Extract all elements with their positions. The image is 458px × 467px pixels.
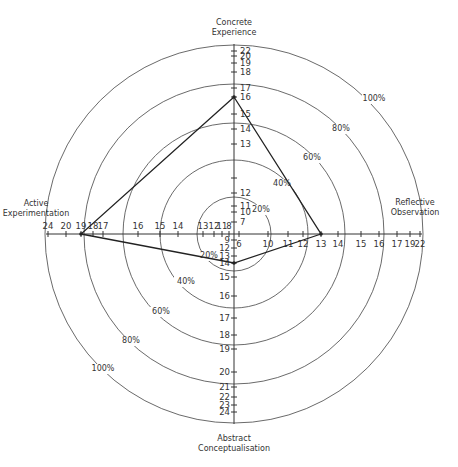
- tick-label: 16: [219, 291, 230, 301]
- tick-label: 10: [263, 239, 274, 249]
- tick-label: 14: [219, 258, 230, 268]
- axis-title-down: Conceptualisation: [198, 444, 270, 453]
- ring-label: 40%: [177, 277, 195, 286]
- axis-title-right: Observation: [391, 208, 440, 217]
- ring-label: 100%: [92, 364, 115, 373]
- axis-title-left: Experimentation: [3, 209, 69, 218]
- data-point-right: [319, 232, 323, 236]
- tick-label: 24: [219, 407, 230, 417]
- tick-label: 21: [219, 382, 230, 392]
- tick-label: 13: [316, 239, 327, 249]
- tick-label: 7: [240, 217, 245, 227]
- tick-label: 6: [236, 239, 241, 249]
- tick-label: 18: [240, 67, 251, 77]
- tick-label: 14: [173, 221, 184, 231]
- data-point-up: [232, 95, 236, 99]
- tick-label: 17: [219, 313, 230, 323]
- tick-label: 16: [374, 239, 385, 249]
- tick-label: 22: [415, 239, 426, 249]
- axis-title-down: Abstract: [217, 434, 251, 443]
- tick-label: 17: [392, 239, 403, 249]
- tick-label: 12: [240, 188, 251, 198]
- ring-label: 80%: [122, 336, 140, 345]
- radar-svg: 7101112131415161718192022ConcreteExperie…: [0, 0, 458, 467]
- axis-title-up: Experience: [212, 28, 257, 37]
- tick-label: 22: [240, 46, 251, 56]
- tick-label: 16: [240, 92, 251, 102]
- data-point-down: [232, 261, 236, 265]
- axis-title-left: Active: [24, 199, 49, 208]
- tick-label: 11: [240, 201, 251, 211]
- tick-label: 15: [155, 221, 166, 231]
- ring-label: 80%: [332, 124, 350, 133]
- ring-label: 100%: [363, 94, 386, 103]
- tick-label: 12: [209, 221, 220, 231]
- tick-label: 13: [240, 139, 251, 149]
- tick-label: 18: [219, 330, 230, 340]
- tick-label: 17: [98, 221, 109, 231]
- tick-label: 16: [133, 221, 144, 231]
- ring-label: 60%: [152, 307, 170, 316]
- kolb-learning-style-radar-chart: 7101112131415161718192022ConcreteExperie…: [0, 0, 458, 467]
- tick-label: 19: [76, 221, 87, 231]
- tick-label: 20: [61, 221, 72, 231]
- axis-title-up: Concrete: [216, 18, 252, 27]
- tick-label: 15: [356, 239, 367, 249]
- tick-label: 19: [219, 344, 230, 354]
- tick-label: 17: [240, 83, 251, 93]
- ring-label: 20%: [252, 205, 270, 214]
- tick-label: 20: [219, 367, 230, 377]
- tick-label: 14: [333, 239, 344, 249]
- ring-label: 20%: [200, 251, 218, 260]
- tick-label: 13: [198, 221, 209, 231]
- tick-label: 15: [219, 272, 230, 282]
- ring-label: 40%: [273, 179, 291, 188]
- tick-label: 14: [240, 124, 251, 134]
- data-point-left: [79, 232, 83, 236]
- axis-title-right: Reflective: [395, 198, 435, 207]
- tick-label: 24: [43, 221, 54, 231]
- ring-label: 60%: [303, 153, 321, 162]
